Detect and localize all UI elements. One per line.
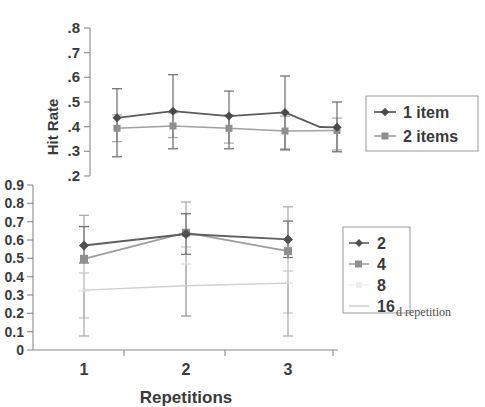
bottom-legend-label-8: 8 <box>377 277 386 294</box>
bottom-legend-label-16: 16 <box>377 298 395 315</box>
charts-svg: .8 .7 .6 .5 .4 .3 .2 Hit Rate <box>0 0 485 407</box>
top-chart-ytick-1: .7 <box>67 44 80 61</box>
top-chart-legend[interactable]: 1 item 2 items <box>366 96 478 151</box>
top-legend-label-1item: 1 item <box>403 104 449 121</box>
square-marker-icon <box>382 133 389 140</box>
bottom-chart-xtick-3: 3 <box>284 361 293 378</box>
bottom-legend-label-4: 4 <box>377 256 386 273</box>
faint-marker-icon <box>356 282 362 288</box>
bottom-chart: 0.9 0.8 0.7 0.6 0.5 0.4 0.3 0.2 0.1 0 1 … <box>5 177 451 407</box>
bottom-chart-ytick-2: 0.7 <box>5 214 25 230</box>
bottom-chart-ytick-4: 0.5 <box>5 250 25 266</box>
top-chart-y-ticks <box>84 28 90 176</box>
bottom-chart-ytick-0: 0.9 <box>5 177 25 193</box>
bottom-legend-label-2: 2 <box>377 235 386 252</box>
top-chart-ytick-4: .4 <box>67 118 80 135</box>
top-chart: .8 .7 .6 .5 .4 .3 .2 Hit Rate <box>44 19 478 184</box>
bottom-chart-ytick-5: 0.4 <box>5 269 25 285</box>
bottom-chart-xlabel: Repetitions <box>140 388 233 407</box>
square-marker-icon <box>355 261 362 268</box>
bottom-chart-legend[interactable]: 2 4 8 16 <box>343 227 410 315</box>
bottom-chart-ytick-9: 0 <box>16 342 24 358</box>
top-chart-series-2items-markers <box>114 123 341 135</box>
top-legend-label-2items: 2 items <box>403 128 458 145</box>
bottom-chart-ytick-1: 0.8 <box>5 195 25 211</box>
figure-panel: .8 .7 .6 .5 .4 .3 .2 Hit Rate <box>0 0 485 407</box>
top-chart-ytick-6: .2 <box>67 167 80 184</box>
bottom-chart-x-ticks <box>124 350 333 356</box>
top-chart-ytick-2: .6 <box>67 68 80 85</box>
bottom-chart-y-ticks <box>27 185 33 350</box>
top-chart-ytick-5: .3 <box>67 142 80 159</box>
bottom-chart-ytick-7: 0.2 <box>5 305 25 321</box>
bottom-chart-xtick-2: 2 <box>182 361 191 378</box>
bottom-chart-ytick-6: 0.3 <box>5 287 25 303</box>
bottom-chart-ytick-8: 0.1 <box>5 324 25 340</box>
top-chart-ytick-0: .8 <box>67 19 80 36</box>
stray-caption-fragment: d repetition <box>396 305 451 319</box>
top-chart-ylabel: Hit Rate <box>44 99 61 156</box>
bottom-chart-xtick-1: 1 <box>80 361 89 378</box>
top-chart-ytick-3: .5 <box>67 93 80 110</box>
bottom-chart-ytick-3: 0.6 <box>5 232 25 248</box>
